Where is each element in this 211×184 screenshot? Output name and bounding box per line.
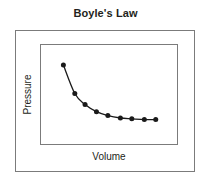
data-point-marker	[72, 91, 77, 96]
data-point-marker	[142, 117, 147, 122]
data-point-marker	[129, 116, 134, 121]
boyles-law-figure: Boyle's Law Pressure Volume	[0, 0, 211, 184]
data-point-marker	[105, 113, 110, 118]
plot-canvas	[40, 44, 178, 145]
data-point-markers	[61, 63, 158, 123]
data-point-marker	[83, 102, 88, 107]
data-point-marker	[94, 109, 99, 114]
data-point-marker	[153, 117, 158, 122]
x-axis-label: Volume	[40, 150, 178, 164]
page-title: Boyle's Law	[0, 7, 211, 20]
pressure-volume-curve	[63, 65, 155, 120]
y-axis-label: Pressure	[21, 44, 35, 145]
data-point-marker	[61, 63, 66, 68]
data-point-marker	[118, 115, 123, 120]
